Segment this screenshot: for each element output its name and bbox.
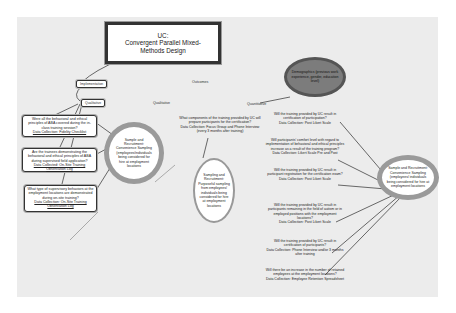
quantitative-label: Quantitative (247, 102, 266, 106)
question-text: Will the training provided by UC result … (265, 112, 345, 121)
left-question-1: Were all the behavioral and ethical prin… (22, 115, 97, 137)
implementation-tag: Implementation (76, 80, 107, 88)
qualitative-tag: Qualitative (81, 99, 105, 107)
data-collection-text: Data Collected: On-Site Training Observa… (25, 163, 94, 172)
right-sample-node: Sample and Recruitment: Convenience Samp… (377, 155, 439, 200)
left-sample-text: Sample and Recruitment: Convenience Samp… (115, 138, 153, 169)
title-line-2: Convergent Parallel Mixed- (125, 39, 201, 47)
question-text: Will the training provided by UC result … (266, 239, 344, 248)
middle-sample-text: Sampling and Recruitment: Purposeful sam… (198, 173, 230, 208)
data-collection-text: Data Collection: Post Likert Scale (266, 220, 344, 224)
data-collection-text: Data Collection: Fidelity Checklist (25, 130, 94, 134)
data-collection-text: Data Collection: On-Site Training Observ… (27, 200, 94, 209)
middle-sample-node: Sampling and Recruitment: Purposeful sam… (193, 158, 235, 223)
question-text: Were all the behavioral and ethical prin… (25, 117, 94, 130)
data-collection-text: Data Collection: Phone Interview and/or … (266, 248, 344, 257)
demographics-node: Demographics (previous work experience, … (284, 57, 346, 97)
title-line-1: UC: (158, 32, 169, 40)
question-text: Will participants' comfort level with re… (265, 138, 345, 151)
question-text: Will the training provided by UC result … (266, 203, 344, 220)
left-question-3: What type of supervisory behaviors at th… (24, 185, 97, 212)
demographics-text: Demographics (previous work experience, … (291, 70, 339, 83)
data-collection-text: Data Collection: Employee Retention Spre… (264, 277, 346, 281)
diagram-title-box: UC: Convergent Parallel Mixed- Methods D… (105, 22, 221, 64)
question-text: What components of the training provided… (176, 116, 264, 125)
middle-question: What components of the training provided… (176, 116, 264, 133)
right-sample-text: Sample and Recruitment: Convenience Samp… (386, 166, 430, 188)
right-question-1: Will the training provided by UC result … (265, 112, 345, 125)
left-question-2: Are the trainees demonstrating the behav… (22, 148, 97, 172)
data-collection-text: Data Collection: Post Likert Scale (266, 177, 344, 181)
question-text: Will there be an increase in the number … (264, 268, 346, 277)
outcomes-label: Outcomes (192, 80, 208, 84)
right-question-6: Will there be an increase in the number … (264, 268, 346, 281)
qualitative-label: Qualitative (153, 101, 170, 105)
question-text: What type of supervisory behaviors at th… (27, 187, 94, 200)
title-line-3: Methods Design (140, 47, 186, 55)
right-question-2: Will participants' comfort level with re… (265, 138, 345, 155)
data-collection-text: Data Collection: Likert Scale Pre and Po… (265, 151, 345, 155)
right-question-5: Will the training provided by UC result … (266, 239, 344, 256)
left-sample-node: Sample and Recruitment: Convenience Samp… (104, 122, 164, 184)
data-collection-text: Data Collection: Focus Group and Phone I… (176, 125, 264, 134)
right-question-3: Will the training provided by UC result … (266, 168, 344, 181)
data-collection-text: Data Collection: Post Likert Scale (265, 121, 345, 125)
right-question-4: Will the training provided by UC result … (266, 203, 344, 224)
question-text: Will the training provided by UC result … (266, 168, 344, 177)
question-text: Are the trainees demonstrating the behav… (25, 150, 94, 163)
